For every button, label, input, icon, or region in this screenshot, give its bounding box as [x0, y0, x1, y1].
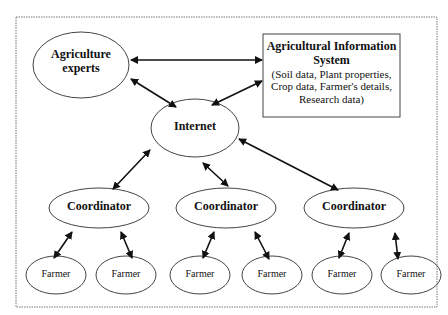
farmer-label: Farmer — [96, 268, 156, 280]
farmer-label: Farmer — [242, 268, 302, 280]
coordinator-label: Coordinator — [176, 200, 276, 214]
arrow-experts-internet — [131, 79, 176, 107]
arrow-coordinator-farmer — [339, 233, 349, 258]
arrow-ais-internet — [212, 81, 262, 105]
arrow-internet-coordinator-2 — [203, 163, 228, 186]
arrow-coordinator-farmer — [255, 232, 269, 259]
internet-label: Internet — [151, 120, 239, 134]
arrow-coordinator-farmer — [395, 233, 398, 259]
farmer-label: Farmer — [170, 268, 230, 280]
arrow-internet-coordinator-1 — [113, 150, 150, 189]
ais-label: Agricultural Information System (Soil da… — [263, 40, 400, 106]
arrow-internet-coordinator-3 — [239, 139, 338, 190]
coordinator-label: Coordinator — [49, 200, 149, 214]
arrow-coordinator-farmer — [54, 232, 72, 258]
arrow-coordinator-farmer — [203, 232, 214, 258]
farmer-label: Farmer — [381, 268, 441, 280]
farmer-label: Farmer — [26, 268, 86, 280]
coordinator-label: Coordinator — [304, 200, 404, 214]
experts-label: Agriculture experts — [33, 48, 129, 76]
farmer-label: Farmer — [312, 268, 372, 280]
arrow-coordinator-farmer — [121, 232, 132, 258]
